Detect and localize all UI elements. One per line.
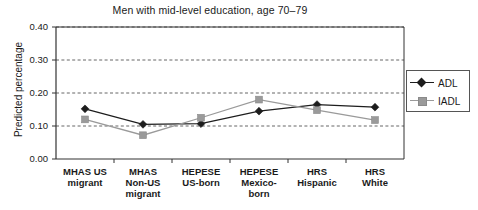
data-point-iadl: [198, 114, 205, 121]
data-point-iadl: [140, 132, 147, 139]
legend-item-iadl[interactable]: IADL: [407, 92, 471, 110]
series-line-adl: [85, 105, 375, 125]
x-axis-tick-label-line: migrant: [114, 188, 172, 199]
x-axis-tick-label-line: MHAS: [114, 166, 172, 177]
legend-diamond-marker-icon: [417, 78, 427, 88]
data-point-adl: [371, 103, 379, 111]
data-point-adl: [81, 105, 89, 113]
data-point-iadl: [256, 96, 263, 103]
legend-item-adl[interactable]: ADL: [407, 74, 471, 92]
x-axis-tick-label-line: migrant: [56, 177, 114, 188]
y-axis-tick-label: 0.10: [14, 121, 48, 131]
x-axis-tick-label: HEPESEMexico-born: [230, 166, 288, 199]
y-axis-tick-label: 0.20: [14, 88, 48, 98]
x-axis-tick-label-line: MHAS US: [56, 166, 114, 177]
x-axis-tick-label: MHASNon-USmigrant: [114, 166, 172, 199]
x-axis-tick-label-line: HRS: [346, 166, 404, 177]
data-point-iadl: [314, 107, 321, 114]
data-point-adl: [139, 120, 147, 128]
x-axis-tick-label-line: Hispanic: [288, 177, 346, 188]
x-axis-tick-label: HRSWhite: [346, 166, 404, 188]
x-axis-tick-label: HRSHispanic: [288, 166, 346, 188]
y-axis-tick-label: 0.00: [14, 154, 48, 164]
x-axis-tick-label-line: born: [230, 188, 288, 199]
x-axis-tick-label-line: HEPESE: [230, 166, 288, 177]
x-axis-tick-label-line: HEPESE: [172, 166, 230, 177]
data-point-iadl: [372, 117, 379, 124]
legend-swatch-iadl: [409, 94, 435, 108]
legend-label: ADL: [438, 78, 457, 89]
y-axis-tick-label: 0.30: [14, 55, 48, 65]
legend-swatch-adl: [409, 76, 435, 90]
x-axis-tick-label-line: Non-US: [114, 177, 172, 188]
x-axis-tick-label-line: HRS: [288, 166, 346, 177]
legend-square-marker-icon: [418, 97, 427, 106]
chart-legend: ADLIADL: [406, 70, 470, 112]
x-axis-tick-label-line: Mexico-: [230, 177, 288, 188]
legend-label: IADL: [438, 96, 460, 107]
x-axis-tick-label-line: White: [346, 177, 404, 188]
y-axis-tick-label: 0.40: [14, 22, 48, 32]
x-axis-tick-label: HEPESEUS-born: [172, 166, 230, 188]
x-axis-tick-label-line: US-born: [172, 177, 230, 188]
data-point-adl: [255, 107, 263, 115]
chart-container: Men with mid-level education, age 70–79 …: [0, 0, 478, 210]
x-axis-tick-label: MHAS USmigrant: [56, 166, 114, 188]
data-point-iadl: [82, 116, 89, 123]
